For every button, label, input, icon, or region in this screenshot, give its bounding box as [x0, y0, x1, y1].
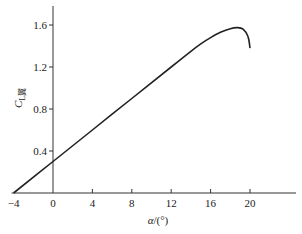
y-tick-label: 1.6 [33, 19, 47, 31]
x-tick-label: 20 [245, 197, 257, 209]
lift-curve [14, 28, 250, 193]
y-tick-label: 0.4 [33, 145, 47, 157]
y-ticks: 0.40.81.21.6 [33, 19, 53, 157]
x-axis-title-unit: /(°) [154, 214, 169, 227]
x-tick-label: 16 [205, 197, 217, 209]
x-tick-label: 4 [90, 197, 96, 209]
x-tick-label: 12 [166, 197, 177, 209]
x-tick-label: 8 [129, 197, 135, 209]
axes [12, 6, 296, 193]
x-ticks: −4048121620 [8, 189, 256, 209]
x-tick-label: −4 [8, 197, 20, 209]
y-axis-title: CL翼 [12, 88, 27, 108]
y-axis-title-subscript: L翼 [18, 88, 27, 101]
x-tick-label: 0 [50, 197, 56, 209]
x-axis-title: α/(°) [148, 214, 169, 227]
y-tick-label: 1.2 [33, 61, 47, 73]
lift-coefficient-chart: −4048121620 0.40.81.21.6 α/(°) CL翼 [0, 0, 302, 234]
y-tick-label: 0.8 [33, 103, 47, 115]
